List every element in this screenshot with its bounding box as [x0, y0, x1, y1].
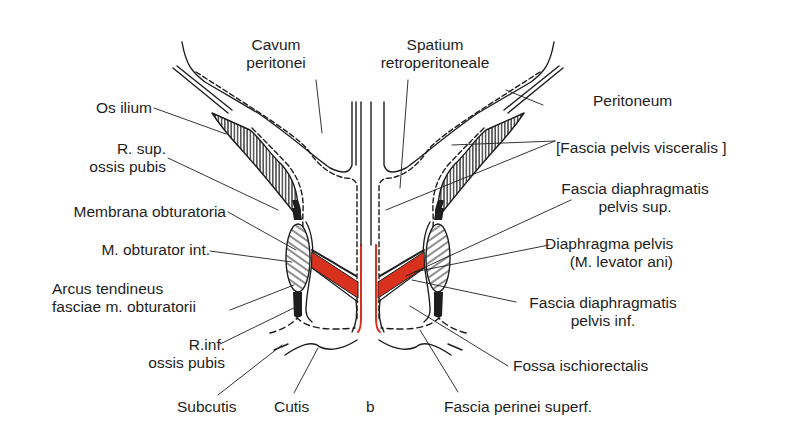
label-r-sup-line1: R. sup. — [40, 140, 166, 158]
label-m-obturator-int: M. obturator int. — [60, 241, 210, 259]
label-fdps-line1: Fascia diaphragmatis — [550, 180, 720, 198]
label-cavum-line2: peritonei — [226, 54, 326, 72]
label-diaphragma-line2: (M. levator ani) — [545, 253, 673, 271]
label-spatium-line1: Spatium — [365, 36, 505, 54]
label-cavum-line1: Cavum — [226, 36, 326, 54]
left-levator-ani — [312, 250, 358, 302]
label-fascia-diaphragmatis-pelvis-sup: Fascia diaphragmatis pelvis sup. — [550, 180, 720, 216]
label-fdpi-line2: pelvis inf. — [518, 312, 688, 330]
label-r-inf-ossis-pubis: R.inf. ossis pubis — [110, 336, 225, 372]
left-perineal-layers — [270, 300, 357, 355]
label-r-sup-ossis-pubis: R. sup. ossis pubis — [40, 140, 166, 176]
label-subcutis: Subcutis — [177, 398, 236, 416]
label-r-inf-line2: ossis pubis — [110, 354, 225, 372]
label-arcus-tendineus: Arcus tendineus fasciae m. obturatorii — [52, 280, 196, 316]
left-obturator-complex — [286, 200, 313, 322]
label-fossa-ischiorectalis: Fossa ischiorectalis — [513, 357, 648, 375]
label-diaphragma-line1: Diaphragma pelvis — [545, 235, 673, 253]
label-r-inf-line1: R.inf. — [110, 336, 225, 354]
panel-letter: b — [366, 398, 375, 416]
label-fdps-line2: pelvis sup. — [550, 198, 720, 216]
label-spatium-line2: retroperitoneale — [365, 54, 505, 72]
label-peritoneum: Peritoneum — [593, 92, 672, 110]
label-fdpi-line1: Fascia diaphragmatis — [518, 294, 688, 312]
label-spatium-retroperitoneale: Spatium retroperitoneale — [365, 36, 505, 72]
label-fascia-perinei-superf: Fascia perinei superf. — [444, 398, 592, 416]
label-fascia-diaphragmatis-pelvis-inf: Fascia diaphragmatis pelvis inf. — [518, 294, 688, 330]
label-arcus-line2: fasciae m. obturatorii — [52, 298, 196, 316]
label-os-ilium: Os ilium — [50, 99, 152, 117]
label-arcus-line1: Arcus tendineus — [52, 280, 196, 298]
label-cutis: Cutis — [274, 398, 309, 416]
label-fascia-pelvis-visceralis: [Fascia pelvis visceralis ] — [556, 139, 727, 157]
label-membrana-obturatoria: Membrana obturatoria — [20, 203, 226, 221]
label-diaphragma-pelvis: Diaphragma pelvis (M. levator ani) — [545, 235, 673, 271]
label-cavum-peritonei: Cavum peritonei — [226, 36, 326, 72]
label-r-sup-line2: ossis pubis — [40, 158, 166, 176]
